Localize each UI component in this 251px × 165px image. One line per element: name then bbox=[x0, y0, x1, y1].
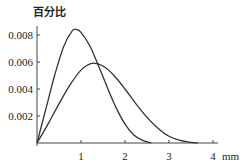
y-axis-label: 百分比 bbox=[33, 5, 66, 19]
distribution-chart: 百分比 0.0020.0040.0060.008 1234 mm bbox=[0, 0, 251, 165]
y-tick-label: 0.008 bbox=[8, 29, 33, 41]
y-tick-label: 0.006 bbox=[8, 56, 33, 68]
y-tick-label: 0.002 bbox=[8, 110, 33, 122]
x-tick-label: 2 bbox=[122, 150, 128, 162]
curve-narrow-distribution bbox=[37, 29, 151, 143]
x-tick-label: 1 bbox=[78, 150, 84, 162]
y-ticks: 0.0020.0040.0060.008 bbox=[8, 29, 40, 122]
curves bbox=[37, 29, 198, 143]
y-tick-label: 0.004 bbox=[8, 83, 33, 95]
curve-wide-distribution bbox=[37, 63, 198, 143]
x-tick-label: 3 bbox=[166, 150, 172, 162]
x-axis-unit-label: mm bbox=[222, 150, 240, 162]
x-tick-label: 4 bbox=[210, 150, 216, 162]
